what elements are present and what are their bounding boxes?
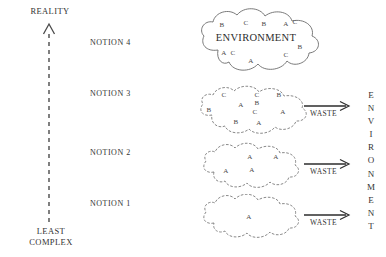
environment-vertical-letter: O <box>361 154 381 167</box>
waste-arrow-group-1: WASTE <box>304 207 354 225</box>
cloud-notion-4: B C B A C ENVIRONMENT B A C A C <box>196 6 324 76</box>
environment-vertical-letter: R <box>361 141 381 154</box>
environment-vertical-label: ENVIRONMENT <box>361 89 381 233</box>
cloud-notion-3: C C B B A B A C B A <box>196 84 314 136</box>
diagram-canvas: REALITY LEAST COMPLEX NOTION 4 NOTION 3 … <box>0 0 386 257</box>
environment-vertical-letter: T <box>361 220 381 233</box>
environment-vertical-letter: V <box>361 115 381 128</box>
waste-label-2: WASTE <box>310 167 337 176</box>
waste-arrow-group-2: WASTE <box>304 156 354 174</box>
environment-vertical-letter: N <box>361 207 381 220</box>
notion-label-4: NOTION 4 <box>90 38 175 47</box>
environment-vertical-letter: E <box>361 89 381 102</box>
notion-label-3: NOTION 3 <box>90 89 175 98</box>
least-complex-line2: COMPLEX <box>29 237 72 247</box>
cloud-notion-1: A <box>200 194 304 242</box>
least-complex-label: LEAST COMPLEX <box>6 226 96 247</box>
environment-vertical-letter: E <box>361 194 381 207</box>
cloud-notion-2: A A A A <box>200 142 304 192</box>
waste-label-3: WASTE <box>310 109 337 118</box>
waste-arrow-group-3: WASTE <box>304 98 354 116</box>
environment-vertical-letter: N <box>361 168 381 181</box>
reality-label: REALITY <box>10 6 90 16</box>
waste-label-1: WASTE <box>310 218 337 227</box>
complexity-axis-arrow <box>41 22 57 225</box>
environment-vertical-letter: I <box>361 128 381 141</box>
notion-label-1: NOTION 1 <box>90 199 175 208</box>
environment-vertical-letter: M <box>361 181 381 194</box>
least-complex-line1: LEAST <box>37 226 65 236</box>
notion-label-2: NOTION 2 <box>90 148 175 157</box>
environment-vertical-letter: N <box>361 102 381 115</box>
